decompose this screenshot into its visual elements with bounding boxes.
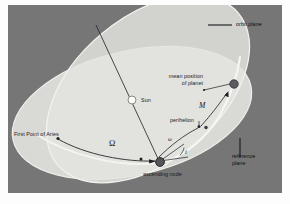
mean-anomaly-symbol: M	[199, 101, 205, 110]
orbit-plane-label: orbit plane	[236, 21, 262, 27]
ascending-node-label: ascending node	[143, 171, 182, 177]
mean-position-label-line2: of planet	[147, 80, 203, 86]
inclination-symbol: i	[185, 148, 187, 155]
omega-arc-dot	[140, 158, 143, 161]
sun-label: Sun	[141, 97, 151, 103]
first-point-of-aries-label: First Point of Aries	[14, 131, 59, 137]
perihelion-marker	[198, 125, 201, 128]
perihelion-marker-secondary	[204, 126, 207, 129]
ascending-node-marker	[156, 158, 165, 167]
aries-marker	[56, 137, 59, 140]
mean-position-anchor-dot	[203, 89, 205, 91]
diagram-panel: orbit plane reference plane mean positio…	[8, 5, 282, 193]
reference-plane-label-line1: reference	[232, 153, 255, 159]
argument-of-perihelion-symbol: ω	[168, 136, 172, 142]
sun-marker	[128, 96, 136, 104]
perihelion-label: perihelion	[170, 117, 194, 123]
planet-marker	[230, 80, 238, 88]
reference-plane-label-line2: plane	[232, 160, 245, 166]
orbital-elements-figure: orbit plane reference plane mean positio…	[0, 0, 290, 204]
mean-position-label-line1: mean position	[147, 73, 203, 79]
longitude-of-ascending-node-symbol: Ω	[109, 138, 115, 148]
